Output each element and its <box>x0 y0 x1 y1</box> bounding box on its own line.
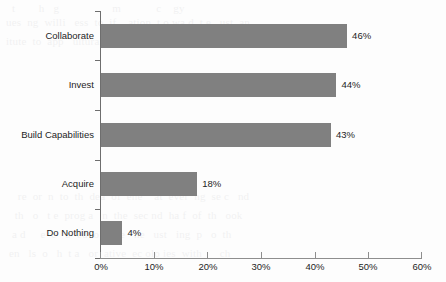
x-axis-label-50: 50% <box>348 261 388 272</box>
x-axis-label-20: 20% <box>188 261 228 272</box>
y-axis-tick <box>95 258 100 259</box>
x-axis-tick <box>368 252 369 258</box>
x-axis-label-40: 40% <box>295 261 335 272</box>
chart-page: t h g m c gy ues ng willi ess to if atio… <box>0 0 446 282</box>
y-axis-tick <box>95 110 100 111</box>
y-axis-tick <box>95 11 100 12</box>
category-label-collaborate: Collaborate <box>0 30 94 41</box>
bar-acquire[interactable] <box>101 172 197 196</box>
bar-value-collaborate: 46% <box>352 30 371 41</box>
bar-value-acquire: 18% <box>202 178 221 189</box>
bar-build-capabilities[interactable] <box>101 123 331 147</box>
x-axis-tick <box>315 252 316 258</box>
bar-collaborate[interactable] <box>101 24 347 48</box>
x-axis-tick <box>154 252 155 258</box>
bar-invest[interactable] <box>101 73 336 97</box>
y-axis-tick <box>95 60 100 61</box>
category-label-invest: Invest <box>0 79 94 90</box>
bar-value-build-capabilities: 43% <box>336 129 355 140</box>
bar-value-do-nothing: 4% <box>127 227 141 238</box>
x-axis-tick <box>100 252 101 258</box>
y-axis-tick <box>95 209 100 210</box>
x-axis-tick <box>207 252 208 258</box>
bar-value-invest: 44% <box>341 79 360 90</box>
bar-do-nothing[interactable] <box>101 221 122 245</box>
x-axis-label-30: 30% <box>241 261 281 272</box>
x-axis-tick <box>261 252 262 258</box>
x-axis-label-0: 0% <box>81 261 121 272</box>
y-axis-tick <box>95 160 100 161</box>
x-axis-tick <box>421 252 422 258</box>
category-label-build-capabilities: Build Capabilities <box>0 129 94 140</box>
x-axis-line <box>100 258 422 259</box>
x-axis-label-10: 10% <box>134 261 174 272</box>
category-label-acquire: Acquire <box>0 178 94 189</box>
bar-chart: Collaborate 46% Invest 44% Build Capabil… <box>0 0 446 282</box>
x-axis-label-60: 60% <box>402 261 442 272</box>
category-label-do-nothing: Do Nothing <box>0 227 94 238</box>
